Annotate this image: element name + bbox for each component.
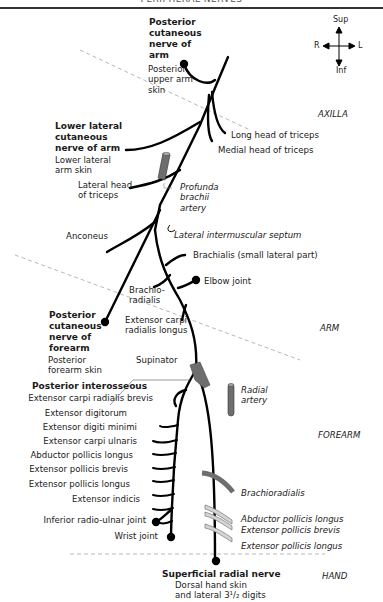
ecrl-label: Extensor carpi radialis longus	[125, 315, 187, 336]
supinator-label: Supinator	[136, 355, 178, 365]
brachialis-branch	[166, 255, 185, 265]
radial-artery-label: Radial artery	[241, 385, 268, 406]
brachioradialis-branch-label: Brachio- radialis	[129, 285, 165, 306]
posterior-interosseous-label: Posterior interosseous	[32, 381, 147, 392]
lateral-head-triceps-label: Lateral head of triceps	[78, 180, 132, 201]
apl-muscle-label: Abductor pollicis longus	[241, 514, 344, 524]
orientation-compass-icon	[323, 27, 355, 66]
posterior-cutaneous-arm-label: Posterior cutaneous nerve of arm	[149, 17, 202, 61]
medial-head-triceps-label: Medial head of triceps	[218, 145, 313, 155]
radial-artery-shape	[228, 384, 234, 416]
pin-branch-wrist-joint-label: Wrist joint	[115, 531, 158, 541]
pin-branch-ed-label: Extensor digitorum	[45, 408, 127, 418]
epb-muscle-label: Extensor pollicis brevis	[241, 525, 340, 535]
pin-branch-apl-label: Abductor pollicis longus	[30, 450, 133, 460]
brachialis-label: Brachialis (small lateral part)	[193, 250, 318, 260]
region-axilla: AXILLA	[318, 109, 348, 119]
superficial-radial-nerve-label: Superficial radial nerve	[162, 569, 281, 580]
dorsal-hand-skin-label: Dorsal hand skin and lateral 3¹/₂ digits	[175, 580, 266, 601]
compass-sup-label: Sup	[333, 15, 348, 25]
long-head-triceps-label: Long head of triceps	[231, 130, 319, 140]
lower-lateral-cutaneous-label: Lower lateral cutaneous nerve of arm	[55, 121, 122, 154]
pin-branch-ecrb-label: Extensor carpi radialis brevis	[28, 393, 153, 403]
brachioradialis-muscle-band	[202, 473, 233, 492]
pin-branch-iru-joint-label: Inferior radio-ulnar joint	[43, 515, 146, 525]
lower-lateral-arm-skin-label: Lower lateral arm skin	[55, 155, 111, 176]
pin-branch-epl-label: Extensor pollicis longus	[29, 479, 130, 489]
posterior-forearm-skin-label: Posterior forearm skin	[48, 355, 102, 376]
pin-branch-ei-label: Extensor indicis	[72, 494, 140, 504]
compass-l-label: L	[358, 41, 362, 51]
posterior-cutaneous-forearm-label: Posterior cutaneous nerve of forearm	[49, 310, 102, 354]
pin-branch-edm-label: Extensor digiti minimi	[43, 422, 137, 432]
pin-branch-epb-label: Extensor pollicis brevis	[29, 464, 128, 474]
radial-nerve-diagram: PERIPHERAL NERVES	[0, 0, 383, 602]
thumb-muscles-bands	[205, 505, 232, 542]
compass-inf-label: Inf	[336, 66, 346, 76]
epl-muscle-label: Extensor pollicis longus	[241, 541, 342, 551]
superficial-radial-path	[196, 370, 215, 560]
anconeus-label: Anconeus	[66, 231, 108, 241]
profunda-brachii-label: Profunda brachii artery	[180, 182, 219, 213]
region-forearm: FOREARM	[318, 430, 360, 440]
region-arm: ARM	[320, 323, 339, 333]
long-head-triceps-branch	[212, 92, 225, 133]
region-hand: HAND	[322, 571, 347, 581]
brachioradialis-muscle-label: Brachioradialis	[241, 488, 305, 498]
lateral-intermuscular-septum-label: Lateral intermuscular septum	[174, 230, 301, 240]
posterior-upper-arm-skin-label: Posterior upper arm skin	[148, 64, 193, 95]
elbow-joint-label: Elbow joint	[204, 276, 251, 286]
compass-r-label: R	[314, 41, 320, 51]
pin-branch-ecu-label: Extensor carpi ulnaris	[43, 436, 137, 446]
